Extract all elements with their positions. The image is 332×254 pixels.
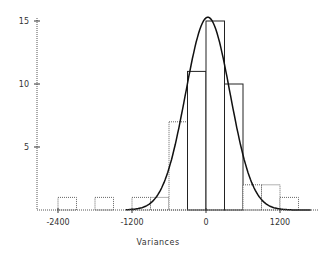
x-tick-label: -1200	[120, 218, 143, 227]
x-tick-label: -2400	[46, 218, 69, 227]
y-axis-ticks: 51015	[19, 17, 40, 152]
y-tick-label: 15	[19, 17, 29, 26]
histogram-bar	[58, 197, 77, 210]
x-axis-ticks: -2400-120001200	[46, 208, 290, 227]
histogram-chart: 51015 -2400-120001200 Variances	[0, 0, 332, 254]
histogram-bar	[169, 122, 188, 210]
histogram-bar	[188, 71, 207, 210]
histogram-bar	[243, 185, 262, 210]
x-axis-label: Variances	[136, 238, 179, 247]
histogram-bars	[58, 21, 299, 210]
x-tick-label: 0	[203, 218, 208, 227]
x-tick-label: 1200	[270, 218, 290, 227]
y-tick-label: 5	[24, 143, 29, 152]
histogram-bar	[280, 197, 299, 210]
histogram-bar	[225, 84, 244, 210]
histogram-bar	[95, 197, 114, 210]
histogram-bar	[151, 197, 170, 210]
y-tick-label: 10	[19, 80, 29, 89]
